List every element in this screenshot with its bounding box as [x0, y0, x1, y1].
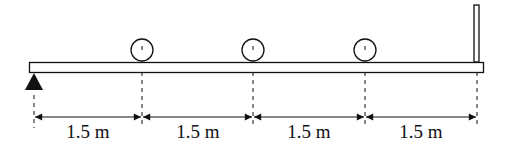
- dimension-label-2: 1.5 m: [158, 121, 238, 143]
- dimension-label-4: 1.5 m: [381, 121, 461, 143]
- dimension-label-3: 1.5 m: [269, 121, 349, 143]
- vertical-post: [474, 5, 479, 62]
- dimension-label-1: 1.5 m: [48, 121, 128, 143]
- pin-support-icon: [25, 73, 43, 90]
- beam: [30, 63, 484, 73]
